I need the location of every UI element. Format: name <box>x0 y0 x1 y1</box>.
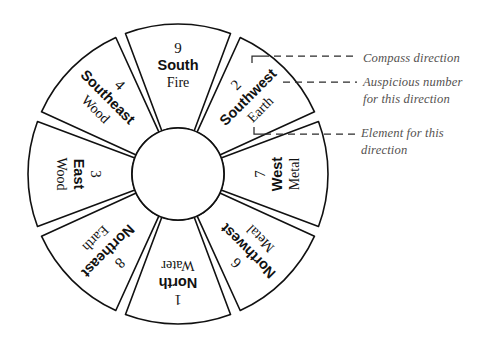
segment-number-east: 3 <box>88 170 104 178</box>
annotation-compass-direction: Compass direction <box>363 50 479 67</box>
segment-element-west: Metal <box>287 158 302 191</box>
annotation-element: Element for this direction <box>361 125 477 158</box>
segment-number-north: 1 <box>174 292 182 308</box>
segment-direction-west: West <box>269 157 285 192</box>
wheel-hub-circle <box>132 128 224 220</box>
segment-number-west: 7 <box>252 170 268 178</box>
segment-element-east: Wood <box>54 157 69 190</box>
segment-number-south: 9 <box>174 40 182 56</box>
segment-element-south: Fire <box>167 75 190 90</box>
segment-element-north: Water <box>161 258 194 273</box>
segment-direction-north: North <box>159 275 198 291</box>
segment-direction-east: East <box>71 159 87 190</box>
segment-direction-south: South <box>157 57 198 73</box>
bagua-wheel-diagram: 9SouthFire2SouthwestEarth7WestMetal6Nort… <box>0 0 482 358</box>
annotation-auspicious-number: Auspicious number for this direction <box>363 74 481 107</box>
